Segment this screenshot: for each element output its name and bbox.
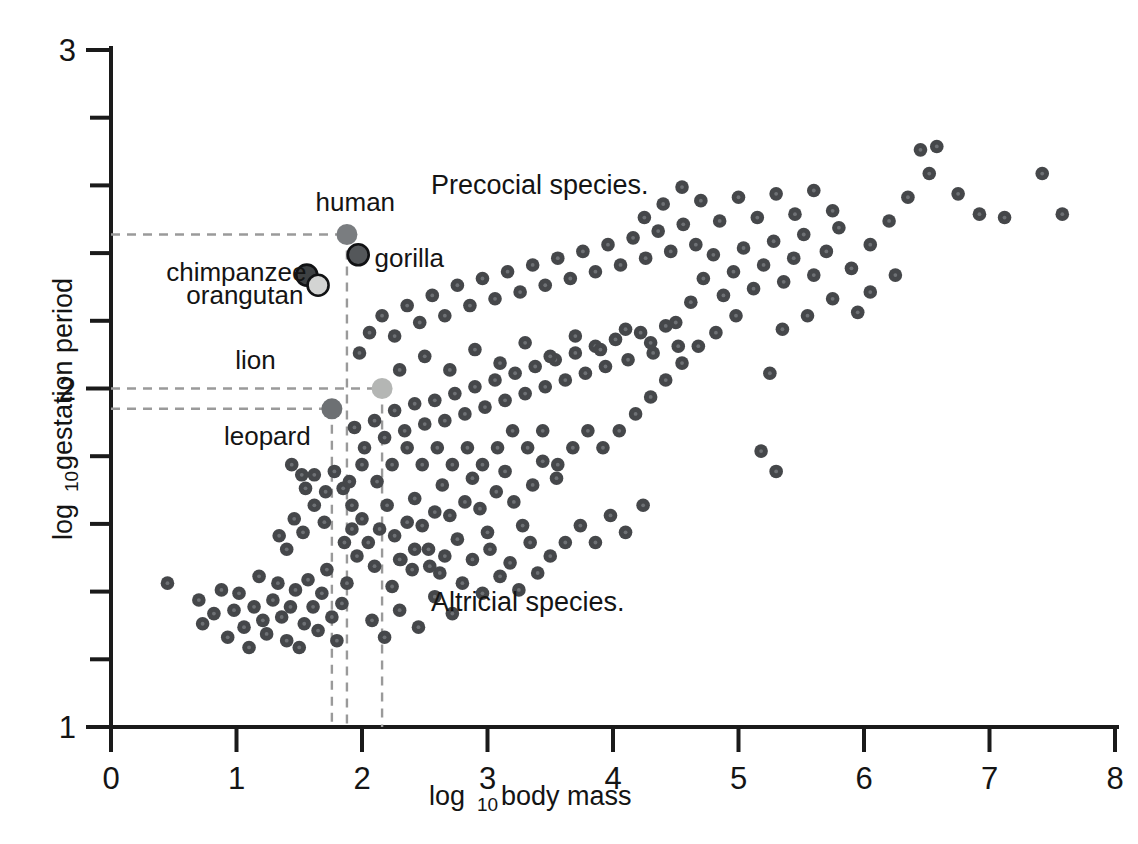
highlight-marker-gorilla[interactable]	[348, 244, 369, 265]
data-point-core	[639, 331, 643, 335]
data-point-core	[503, 470, 507, 474]
data-point-core	[626, 358, 630, 362]
data-point-core	[486, 530, 490, 534]
data-point-core	[435, 446, 439, 450]
data-point-core	[390, 463, 394, 467]
x-tick-label: 8	[1106, 761, 1123, 796]
data-point-core	[978, 212, 982, 216]
highlight-marker-human[interactable]	[336, 224, 357, 245]
data-point-core	[197, 598, 201, 602]
data-point-core	[306, 578, 310, 582]
data-point-core	[292, 517, 296, 521]
data-point-core	[340, 602, 344, 606]
data-point-core	[555, 476, 559, 480]
data-point-core	[261, 618, 265, 622]
data-point-group	[161, 140, 1069, 655]
data-point-core	[345, 581, 349, 585]
highlight-marker-lion[interactable]	[372, 378, 393, 399]
point-label-gorilla: gorilla	[375, 243, 445, 273]
x-axis-title-tail: body mass	[501, 781, 632, 811]
data-point-core	[455, 283, 459, 287]
data-point-core	[1003, 216, 1007, 220]
gestation-body-mass-scatter-figure: 123 012345678 Precocial species.Altricia…	[0, 0, 1138, 844]
data-point-core	[420, 524, 424, 528]
data-point-core	[812, 189, 816, 193]
data-point-core	[631, 236, 635, 240]
data-point-core	[363, 446, 367, 450]
data-point-core	[956, 192, 960, 196]
data-point-core	[694, 243, 698, 247]
x-tick-label: 1	[228, 761, 245, 796]
data-point-core	[420, 463, 424, 467]
data-point-core	[271, 598, 275, 602]
data-point-core	[573, 334, 577, 338]
x-axis-title-sub: 10	[477, 794, 498, 815]
highlight-marker-orangutan[interactable]	[308, 275, 329, 296]
data-point-core	[543, 385, 547, 389]
data-point-core	[257, 574, 261, 578]
data-point-core	[375, 480, 379, 484]
data-point-core	[320, 591, 324, 595]
data-point-core	[548, 554, 552, 558]
data-point-core	[511, 429, 515, 433]
data-point-core	[1040, 172, 1044, 176]
data-point-core	[471, 558, 475, 562]
data-point-core	[541, 459, 545, 463]
highlight-marker-leopard[interactable]	[321, 398, 342, 419]
data-point-core	[583, 371, 587, 375]
data-point-core	[850, 266, 854, 270]
data-point-core	[433, 510, 437, 514]
data-point-core	[523, 392, 527, 396]
data-point-core	[440, 483, 444, 487]
data-point-core	[661, 202, 665, 206]
data-point-core	[483, 405, 487, 409]
data-point-core	[413, 402, 417, 406]
data-point-core	[350, 527, 354, 531]
x-axis-ticks	[111, 727, 1115, 752]
data-point-core	[461, 581, 465, 585]
data-point-core	[571, 446, 575, 450]
data-point-core	[450, 463, 454, 467]
data-point-core	[322, 520, 326, 524]
data-point-core	[563, 541, 567, 545]
data-point-core	[427, 547, 431, 551]
data-point-core	[752, 287, 756, 291]
data-point-core	[676, 344, 680, 348]
data-point-core	[548, 354, 552, 358]
data-point-core	[578, 524, 582, 528]
data-point-core	[768, 371, 772, 375]
data-point-core	[774, 192, 778, 196]
data-point-core	[280, 615, 284, 619]
data-point-core	[772, 239, 776, 243]
data-point-core	[701, 277, 705, 281]
data-point-core	[533, 365, 537, 369]
y-axis-ticks	[86, 50, 111, 727]
data-point-core	[642, 216, 646, 220]
data-point-core	[831, 297, 835, 301]
data-point-core	[393, 409, 397, 413]
data-point-core	[360, 517, 364, 521]
data-point-core	[644, 256, 648, 260]
data-point-core	[680, 361, 684, 365]
x-tick-label: 7	[981, 761, 998, 796]
data-point-core	[793, 212, 797, 216]
data-point-core	[927, 172, 931, 176]
x-tick-label: 2	[353, 761, 370, 796]
data-point-core	[405, 520, 409, 524]
data-point-core	[276, 581, 280, 585]
data-point-core	[594, 541, 598, 545]
data-point-core	[463, 412, 467, 416]
data-point-core	[226, 635, 230, 639]
data-point-core	[919, 148, 923, 152]
data-point-core	[341, 486, 345, 490]
data-point-core	[166, 581, 170, 585]
data-point-core	[311, 605, 315, 609]
data-point-core	[468, 304, 472, 308]
data-point-core	[265, 632, 269, 636]
data-point-core	[755, 216, 759, 220]
data-point-core	[624, 327, 628, 331]
point-label-lion: lion	[235, 345, 275, 375]
x-tick-label: 0	[102, 761, 119, 796]
data-point-core	[523, 341, 527, 345]
data-point-core	[473, 385, 477, 389]
